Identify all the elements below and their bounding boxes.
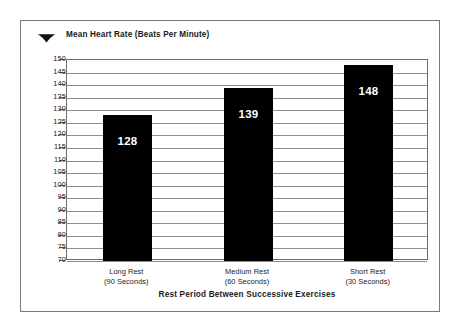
x-tick-label-line1: Long Rest <box>66 267 187 277</box>
bar[interactable]: 128 <box>103 115 152 261</box>
x-tick-label-line2: (60 Seconds) <box>187 277 308 287</box>
x-tick-label-line1: Medium Rest <box>187 267 308 277</box>
x-tick-label: Short Rest(30 Seconds) <box>307 267 428 287</box>
x-tick-label-line1: Short Rest <box>307 267 428 277</box>
x-tick-label: Medium Rest(60 Seconds) <box>187 267 308 287</box>
x-tick-label-line2: (90 Seconds) <box>66 277 187 287</box>
x-tick-label-line2: (30 Seconds) <box>307 277 428 287</box>
plot-area: 128139148 <box>66 59 428 260</box>
chart-title: Mean Heart Rate (Beats Per Minute) <box>66 29 209 40</box>
bar-value-label: 139 <box>224 108 273 120</box>
hexagon-marker-icon <box>38 29 55 40</box>
bar-value-label: 148 <box>344 85 393 97</box>
bar[interactable]: 148 <box>344 65 393 261</box>
x-axis-title: Rest Period Between Successive Exercises <box>66 290 428 299</box>
bar[interactable]: 139 <box>224 88 273 261</box>
bar-value-label: 128 <box>103 135 152 147</box>
gridline <box>67 261 427 262</box>
chart-figure: Mean Heart Rate (Beats Per Minute) 12813… <box>0 0 461 333</box>
x-tick-label: Long Rest(90 Seconds) <box>66 267 187 287</box>
chart-legend: Mean Heart Rate (Beats Per Minute) <box>38 26 209 42</box>
